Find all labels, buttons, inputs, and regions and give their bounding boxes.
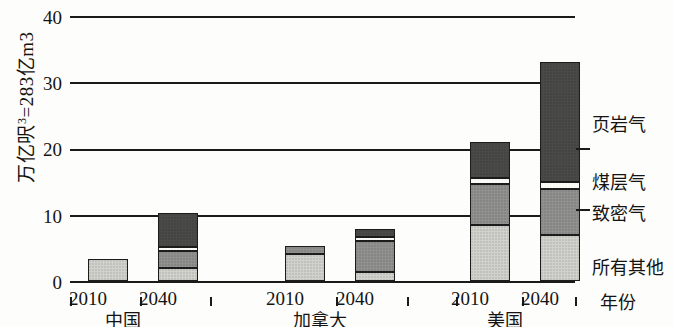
bar-segment: [540, 62, 580, 182]
y-tick-label-10: 10: [26, 207, 62, 226]
x-tick-2: [210, 297, 212, 306]
bar-segment: [470, 184, 510, 225]
axis-baseline: [70, 281, 575, 283]
x-tick-4: [407, 297, 409, 306]
y-axis-title-exponent: 3: [15, 118, 29, 125]
bar-segment: [355, 272, 395, 281]
legend-item-other[interactable]: 所有其他: [592, 253, 664, 279]
legend-leader-tight: [576, 209, 590, 211]
bar-segment: [88, 259, 128, 281]
bar-china-2040[interactable]: [158, 213, 198, 281]
x-axis-title: 年份: [600, 288, 636, 314]
bar-segment: [158, 268, 198, 281]
y-tick-label-30: 30: [26, 74, 62, 93]
y-tick-label-20: 20: [26, 140, 62, 159]
y-axis-title: 万亿呎3=283亿m3: [11, 7, 37, 207]
bar-canada-2010[interactable]: [285, 246, 325, 281]
gridline-40: [70, 16, 575, 18]
x-tick-7: [575, 297, 577, 306]
bar-segment: [285, 254, 325, 281]
bar-segment: [355, 237, 395, 242]
bar-segment: [355, 229, 395, 236]
plot-area: [70, 16, 575, 281]
bar-segment: [355, 241, 395, 272]
bar-segment: [470, 178, 510, 184]
bar-usa-2010[interactable]: [470, 142, 510, 281]
legend-item-tight[interactable]: 致密气: [592, 199, 646, 225]
chart-figure: 万亿呎3=283亿m3 40 30 20 10 0 2010 2040 2010…: [0, 0, 674, 327]
legend-leader-shale: [576, 148, 590, 150]
bar-segment: [540, 235, 580, 281]
x-group-label-usa: 美国: [440, 306, 570, 327]
bar-usa-2040[interactable]: [540, 62, 580, 281]
legend-item-cbm[interactable]: 煤层气: [592, 168, 646, 194]
bar-segment: [158, 213, 198, 246]
legend-item-shale[interactable]: 页岩气: [592, 110, 646, 136]
bar-canada-2040[interactable]: [355, 229, 395, 281]
x-group-label-canada: 加拿大: [255, 306, 385, 327]
bar-segment: [285, 246, 325, 254]
bar-segment: [470, 225, 510, 281]
y-tick-label-40: 40: [26, 8, 62, 27]
bar-china-2010[interactable]: [88, 259, 128, 281]
gridline-30: [70, 82, 575, 84]
x-group-label-china: 中国: [58, 306, 188, 327]
bar-segment: [158, 247, 198, 251]
bar-segment: [540, 182, 580, 189]
bar-segment: [158, 251, 198, 268]
bar-segment: [470, 142, 510, 178]
bar-segment: [540, 189, 580, 235]
